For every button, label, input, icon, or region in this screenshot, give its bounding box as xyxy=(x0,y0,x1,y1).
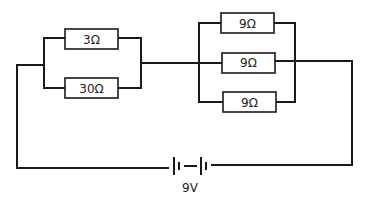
resistor-label: 9Ω xyxy=(241,96,258,110)
resistor-9-ohm-top: 9Ω xyxy=(221,13,274,33)
resistor-30-ohm: 30Ω xyxy=(65,78,118,98)
parallel-group-left: 3Ω 30Ω xyxy=(44,29,141,98)
resistor-label: 3Ω xyxy=(83,33,100,47)
resistor-9-ohm-bottom: 9Ω xyxy=(223,92,276,112)
circuit-diagram: 3Ω 30Ω 9Ω 9Ω 9Ω xyxy=(0,0,369,211)
resistor-label: 9Ω xyxy=(239,17,256,31)
resistor-label: 30Ω xyxy=(79,82,103,96)
battery-label: 9V xyxy=(182,181,199,195)
parallel-group-right: 9Ω 9Ω 9Ω xyxy=(199,13,295,112)
wire-right-outer xyxy=(212,61,352,165)
resistor-label: 9Ω xyxy=(240,56,257,70)
battery-icon: 9V xyxy=(174,157,206,195)
resistor-9-ohm-middle: 9Ω xyxy=(222,53,275,73)
resistor-3-ohm: 3Ω xyxy=(65,29,118,49)
